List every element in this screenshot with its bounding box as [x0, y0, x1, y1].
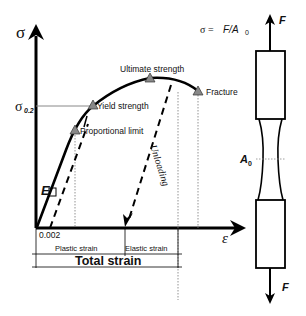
svg-text:0.2: 0.2	[24, 107, 34, 114]
plastic-strain-label: Plastic strain	[55, 244, 98, 253]
proportional-marker	[70, 125, 80, 134]
stress-formula: σ = F/A 0	[200, 24, 249, 36]
svg-text:σ =: σ =	[200, 24, 214, 35]
ultimate-label: Ultimate strength	[120, 64, 185, 74]
offset-strain-label: 0.002	[39, 230, 61, 240]
fracture-label: Fracture	[206, 87, 238, 97]
tensile-specimen	[256, 14, 286, 304]
x-axis-label: ε	[222, 230, 228, 246]
sigma-02-label: σ 0.2	[15, 99, 34, 114]
svg-text:0: 0	[248, 160, 252, 167]
stress-strain-diagram: E σ σ 0.2 ε 0.002 Ultimate strength Frac…	[0, 0, 306, 316]
svg-text:0: 0	[245, 29, 249, 36]
x-axis	[36, 220, 246, 236]
area-label: A 0	[239, 153, 252, 167]
svg-text:A: A	[239, 153, 248, 165]
total-strain-label: Total strain	[75, 254, 141, 268]
force-bottom-label: F	[282, 281, 289, 293]
modulus-label: E	[41, 183, 50, 198]
svg-text:F/A: F/A	[223, 24, 239, 35]
yield-label: Yield strength	[97, 101, 149, 111]
force-top-label: F	[279, 14, 286, 26]
y-axis-label: σ	[16, 23, 25, 42]
unloading-label: Unloading	[148, 143, 172, 187]
svg-text:σ: σ	[15, 99, 23, 114]
elastic-strain-label: Elastic strain	[125, 244, 168, 253]
proportional-label: Proportional limit	[80, 126, 144, 136]
dotted-guides	[75, 92, 198, 300]
unloading-arrowhead	[123, 213, 133, 227]
